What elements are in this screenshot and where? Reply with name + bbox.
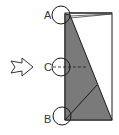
label-c: C (44, 62, 52, 73)
diagram-canvas (0, 0, 119, 135)
label-a: A (44, 10, 51, 21)
hollow-right-arrow-icon (11, 58, 33, 76)
label-b: B (44, 114, 51, 125)
fold-diagram: A C B (0, 0, 119, 135)
